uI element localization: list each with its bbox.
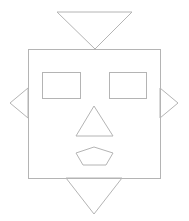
robot-face-diagram bbox=[0, 0, 189, 221]
